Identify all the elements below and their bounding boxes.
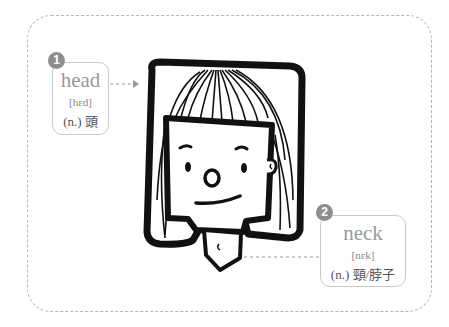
head-arrow-icon [133,80,139,88]
label-word: head [53,69,108,91]
label-word: neck [321,222,405,244]
label-neck: neck [nɛk] (n.) 頸/脖子 [320,215,406,287]
badge-number-2: 2 [316,204,333,221]
label-definition: (n.) 頭 [53,113,108,131]
label-ipa: [hɛd] [53,95,108,110]
badge-number-1: 1 [48,52,65,69]
label-head: head [hɛd] (n.) 頭 [52,62,109,135]
label-definition: (n.) 頸/脖子 [321,266,405,284]
label-ipa: [nɛk] [321,248,405,263]
